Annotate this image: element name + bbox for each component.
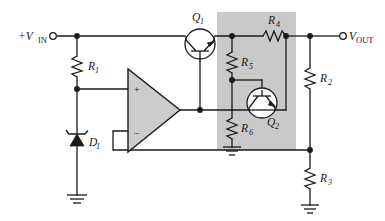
label-r3-main: R (319, 172, 327, 184)
label-input-terminal: +V IN (18, 30, 47, 45)
transistor-q2 (247, 88, 277, 118)
label-q1-subscript: 1 (200, 17, 204, 26)
node-r4-left (229, 33, 235, 39)
label-r4-main: R (267, 14, 275, 26)
label-r5-main: R (240, 56, 248, 68)
label-r3: R 3 (319, 172, 332, 187)
label-r2-subscript: 2 (328, 78, 332, 87)
label-r3-subscript: 3 (327, 178, 332, 187)
operational-amplifier[interactable]: + − (128, 69, 180, 152)
label-q2-subscript: 2 (275, 122, 279, 131)
resistor-r3 (305, 168, 315, 189)
transistor-q1 (185, 29, 215, 62)
ground-d1 (67, 195, 87, 203)
label-r5-subscript: 5 (249, 62, 253, 71)
label-r2: R 2 (319, 72, 332, 87)
label-r4-subscript: 4 (276, 20, 280, 29)
label-d1-subscript: 1 (96, 142, 100, 151)
input-terminal-circle[interactable] (50, 33, 57, 40)
circuit-diagram: + − (0, 0, 385, 221)
resistor-r1 (72, 56, 82, 77)
node-reference (74, 86, 80, 92)
label-r6-main: R (240, 122, 248, 134)
label-q1: Q 1 (192, 11, 204, 26)
circuit-schematic-canvas: + − (0, 0, 385, 221)
output-terminal-circle[interactable] (340, 33, 347, 40)
label-vin-subscript: IN (38, 35, 47, 45)
ground-r3 (301, 205, 319, 213)
label-r1: R 1 (87, 60, 99, 75)
label-vout-subscript: OUT (356, 35, 374, 45)
label-output-terminal: V OUT (349, 30, 374, 45)
node-output (307, 33, 313, 39)
resistor-r2 (305, 68, 315, 89)
label-r2-main: R (319, 72, 327, 84)
node-feedback-divider (307, 147, 313, 153)
node-vin (74, 33, 80, 39)
label-r1-subscript: 1 (95, 66, 99, 75)
label-d1: D 1 (88, 136, 100, 151)
label-r1-main: R (87, 60, 95, 72)
label-vin-main: +V (18, 30, 35, 42)
opamp-plus-sign: + (134, 84, 140, 95)
label-r6-subscript: 6 (249, 128, 253, 137)
node-q1-base (197, 107, 203, 113)
opamp-minus-sign: − (134, 128, 140, 139)
node-r5-r6-tap (229, 77, 235, 83)
